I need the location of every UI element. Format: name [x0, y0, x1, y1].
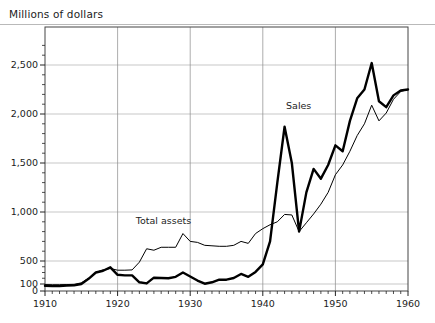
- series-line-sales: [45, 63, 408, 286]
- line-chart-svg: 01005001,0001,5002,0002,500 191019201930…: [0, 0, 435, 323]
- y-tick-label: 100: [20, 278, 38, 289]
- y-tick-label: 1,000: [11, 206, 38, 217]
- y-axis-tick-labels: 01005001,0001,5002,0002,500: [11, 59, 38, 296]
- gridlines: [45, 27, 408, 291]
- plot-frame: [45, 27, 408, 291]
- x-tick-label: 1910: [33, 298, 57, 309]
- y-tick-label: 2,500: [11, 59, 38, 70]
- series-label-sales: Sales: [286, 100, 311, 111]
- y-tick-label: 1,500: [11, 157, 38, 168]
- axis-ticks: [40, 45, 408, 296]
- x-tick-label: 1930: [178, 298, 202, 309]
- x-tick-label: 1940: [251, 298, 275, 309]
- series-label-total-assets: Total assets: [135, 215, 191, 226]
- y-tick-label: 2,000: [11, 108, 38, 119]
- y-tick-label: 500: [20, 255, 38, 266]
- chart-figure: Millions of dollars 01005001,0001,5002,0…: [0, 0, 435, 323]
- series-line-total-assets: [45, 90, 408, 285]
- x-axis-tick-labels: 191019201930194019501960: [33, 298, 420, 309]
- x-tick-label: 1920: [106, 298, 130, 309]
- x-tick-label: 1950: [323, 298, 347, 309]
- data-series: [45, 63, 408, 286]
- x-tick-label: 1960: [396, 298, 420, 309]
